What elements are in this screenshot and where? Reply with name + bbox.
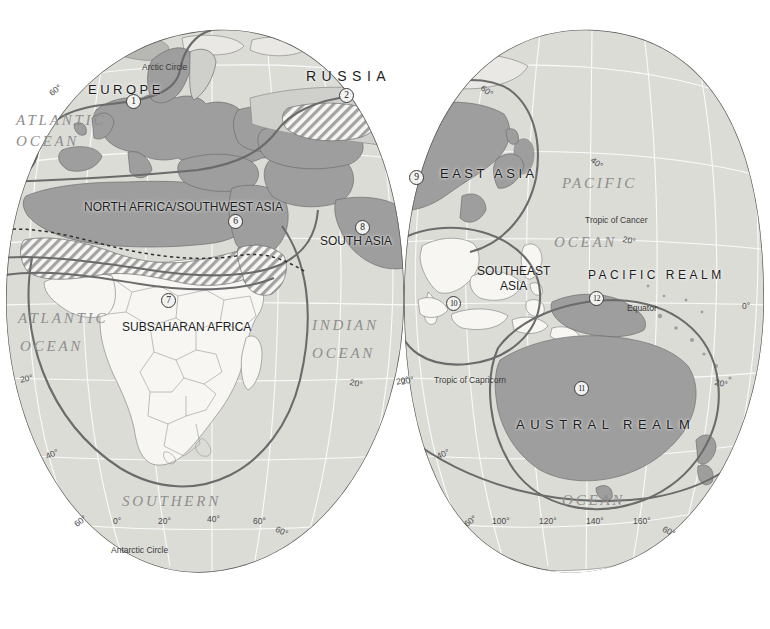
realm-marker-7[interactable]: 7 <box>161 293 176 308</box>
map-graphic <box>0 0 770 629</box>
realm-marker-6[interactable]: 6 <box>228 214 243 229</box>
world-realms-map: ATLANTICOCEANATLANTICOCEANINDIANOCEANPAC… <box>0 0 770 629</box>
right-hemisphere-lobe <box>398 0 770 629</box>
realm-marker-8[interactable]: 8 <box>355 220 370 235</box>
realm-marker-9[interactable]: 9 <box>409 170 424 185</box>
realm-marker-11[interactable]: 11 <box>574 381 589 396</box>
realm-marker-12[interactable]: 12 <box>589 291 604 306</box>
realm-marker-10[interactable]: 10 <box>446 296 461 311</box>
realm-marker-1[interactable]: 1 <box>126 94 141 109</box>
realm-marker-2[interactable]: 2 <box>339 88 354 103</box>
